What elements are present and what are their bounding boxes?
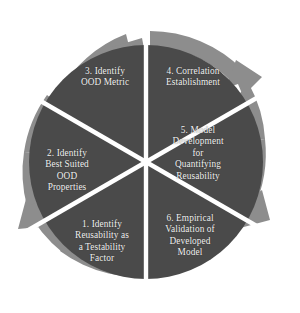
- circular-process-diagram: [0, 0, 300, 313]
- figure-canvas: 3. Identify OOD Metric 4. Correlation Es…: [0, 0, 300, 313]
